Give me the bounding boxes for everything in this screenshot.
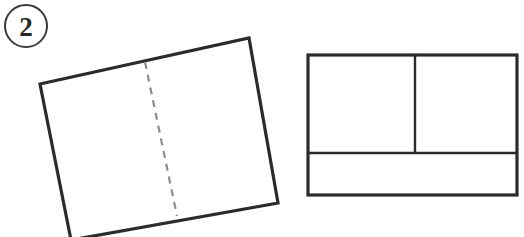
step-number-label: 2 xyxy=(19,12,33,42)
step-number-badge: 2 xyxy=(5,5,47,47)
flat-rectangle-panel xyxy=(308,55,517,195)
step-diagram-illustration: 2 xyxy=(0,0,524,237)
diagram-canvas: 2 xyxy=(0,0,524,237)
